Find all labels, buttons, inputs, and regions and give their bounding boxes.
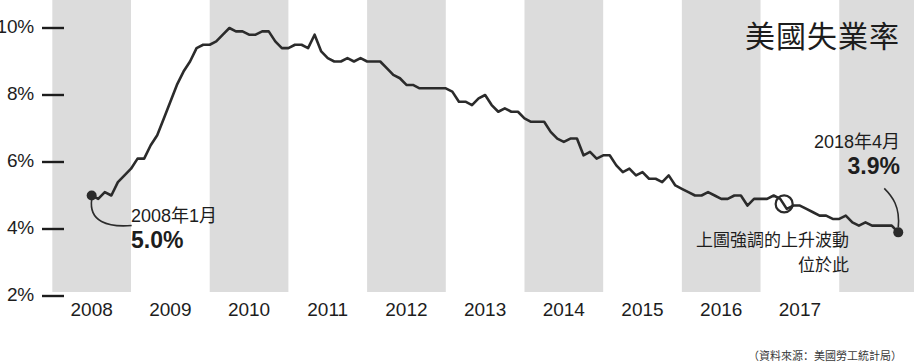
start-point-marker (87, 191, 97, 201)
annotation-start-date: 2008年1月 (131, 205, 217, 227)
x-tick-label-2015: 2015 (603, 299, 683, 321)
annotation-start-value: 5.0% (131, 227, 217, 253)
x-tick-label-2014: 2014 (524, 299, 604, 321)
chart-title: 美國失業率 (745, 12, 900, 56)
annotation-start: 2008年1月 5.0% (131, 205, 217, 253)
x-tick-label-2016: 2016 (681, 299, 761, 321)
source-note: （資料來源：美國勞工統計局） (748, 347, 902, 363)
x-tick-label-2009: 2009 (130, 299, 210, 321)
y-tick-label-4%: 4% (0, 217, 34, 239)
x-tick-label-2012: 2012 (366, 299, 446, 321)
annotation-note-line2: 位於此 (663, 253, 849, 278)
y-tick-label-8%: 8% (0, 83, 34, 105)
x-tick-label-2008: 2008 (52, 299, 132, 321)
annotation-note-line1: 上圖強調的上升波動 (663, 228, 849, 253)
annotation-end-date: 2018年4月 (814, 131, 900, 153)
unemployment-line (92, 28, 899, 232)
x-tick-label-2010: 2010 (209, 299, 289, 321)
annotation-end-value: 3.9% (814, 153, 900, 179)
x-tick-label-2013: 2013 (445, 299, 525, 321)
annotation-end: 2018年4月 3.9% (814, 131, 900, 179)
y-tick-label-10%: 10% (0, 16, 34, 38)
y-tick-label-2%: 2% (0, 284, 34, 306)
leader-line-end (884, 188, 898, 227)
x-tick-label-2011: 2011 (288, 299, 368, 321)
leader-line-start (91, 200, 131, 226)
x-tick-label-2017: 2017 (760, 299, 840, 321)
end-point-marker (893, 227, 903, 237)
y-tick-label-6%: 6% (0, 150, 34, 172)
annotation-highlight-note: 上圖強調的上升波動 位於此 (663, 228, 849, 278)
